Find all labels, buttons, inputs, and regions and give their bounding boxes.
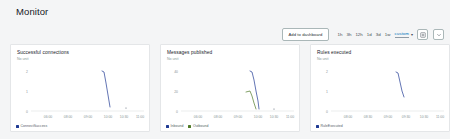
x-tick-label: 09:30 <box>402 115 411 119</box>
legend-item[interactable]: Outbound <box>188 124 208 128</box>
legend-label: Inbound <box>171 124 184 128</box>
time-range-selector: 1h 3h 12h 1d 3d 1w custom ▾ <box>337 31 413 38</box>
y-tick-label: 2 <box>26 70 28 74</box>
chart-plot-area: 2 1 0 06:00 08:00 09:00 10:00 10:30 11:0… <box>16 63 146 121</box>
x-tick-label: 10:00 <box>104 115 113 119</box>
y-tick-label: 40 <box>174 70 178 74</box>
x-tick-label: 10:30 <box>120 115 129 119</box>
legend-label: ConnectSuccess <box>21 124 48 128</box>
page-header: Monitor <box>0 0 450 26</box>
x-tick-label: 10:00 <box>254 115 263 119</box>
chevron-down-icon <box>436 32 442 38</box>
series-point <box>125 107 126 108</box>
series-point <box>273 108 274 109</box>
series-line-ruleexecuted <box>396 72 404 97</box>
legend-label: Outbound <box>193 124 209 128</box>
x-tick-label: 08:00 <box>344 115 353 119</box>
x-axis-ticks: 06:00 08:00 09:00 10:00 10:30 11:00 <box>194 115 294 119</box>
legend-swatch-icon <box>316 125 319 128</box>
chart-title: Messages published <box>167 49 294 56</box>
x-tick-label: 06:00 <box>44 115 53 119</box>
x-tick-label: 10:30 <box>270 115 279 119</box>
monitor-page: Monitor Add to dashboard 1h 3h 12h 1d 3d… <box>0 0 450 139</box>
time-range-12h[interactable]: 12h <box>355 32 362 37</box>
add-to-dashboard-button[interactable]: Add to dashboard <box>282 28 330 41</box>
chart-card-successful-connections[interactable]: Successful connections No unit 2 1 0 06:… <box>10 44 150 132</box>
chart-svg: 2 1 0 06:00 08:00 09:00 10:00 10:30 11:0… <box>16 63 146 121</box>
time-range-3h[interactable]: 3h <box>346 32 351 37</box>
y-axis-ticks: 40 20 0 <box>174 70 178 114</box>
x-tick-label: 08:00 <box>64 115 73 119</box>
chart-legend: ConnectSuccess <box>16 124 47 128</box>
x-tick-label: 08:30 <box>364 115 373 119</box>
y-axis-ticks: 2 1 0 <box>326 70 328 114</box>
y-tick-label: 2 <box>326 70 328 74</box>
legend-label: RuleExecuted <box>321 124 343 128</box>
series-line-connectsuccess <box>102 71 110 107</box>
legend-swatch-icon <box>188 125 191 128</box>
x-tick-label: 09:00 <box>234 115 243 119</box>
refresh-icon <box>420 32 426 38</box>
toolbar: Add to dashboard 1h 3h 12h 1d 3d 1w cust… <box>0 26 450 44</box>
y-tick-label: 1 <box>326 90 328 94</box>
chart-card-rules-executed[interactable]: Rules executed No unit 2 1 0 08:00 08:30… <box>310 44 450 132</box>
chart-title: Successful connections <box>17 49 144 56</box>
y-tick-label: 20 <box>174 90 178 94</box>
chart-unit-label: No unit <box>17 56 144 62</box>
chart-svg: 40 20 0 06:00 08:00 09:00 10:00 10:30 11… <box>166 63 296 121</box>
chart-plot-area: 2 1 0 08:00 08:30 09:00 09:30 10:30 11:0… <box>316 63 446 121</box>
chart-unit-label: No unit <box>317 56 444 62</box>
legend-item[interactable]: RuleExecuted <box>316 124 343 128</box>
x-tick-label: 11:00 <box>136 115 144 119</box>
y-tick-label: 1 <box>26 90 28 94</box>
series-line-outbound <box>246 91 256 109</box>
series-line-inbound <box>250 71 259 109</box>
chart-legend: Inbound Outbound <box>166 124 209 128</box>
y-tick-label: 0 <box>26 110 28 114</box>
legend-item[interactable]: ConnectSuccess <box>16 124 47 128</box>
legend-swatch-icon <box>166 125 169 128</box>
chart-legend: RuleExecuted <box>316 124 343 128</box>
x-tick-label: 11:00 <box>436 115 444 119</box>
settings-dropdown-button[interactable] <box>433 29 444 40</box>
time-range-1d[interactable]: 1d <box>367 32 372 37</box>
x-axis-ticks: 08:00 08:30 09:00 09:30 10:30 11:00 <box>344 115 444 119</box>
chart-unit-label: No unit <box>167 56 294 62</box>
x-axis-ticks: 06:00 08:00 09:00 10:00 10:30 11:00 <box>44 115 144 119</box>
time-range-1h[interactable]: 1h <box>337 32 342 37</box>
chart-card-messages-published[interactable]: Messages published No unit 40 20 0 06:00… <box>160 44 300 132</box>
x-tick-label: 08:00 <box>214 115 223 119</box>
x-tick-label: 11:00 <box>286 115 294 119</box>
y-tick-label: 0 <box>326 110 328 114</box>
chart-svg: 2 1 0 08:00 08:30 09:00 09:30 10:30 11:0… <box>316 63 446 121</box>
chart-title: Rules executed <box>317 49 444 56</box>
time-range-custom[interactable]: custom <box>395 31 409 38</box>
x-tick-label: 06:00 <box>194 115 203 119</box>
page-title: Monitor <box>16 6 48 18</box>
time-range-1w[interactable]: 1w <box>385 32 391 37</box>
refresh-button[interactable] <box>417 29 428 40</box>
y-axis-ticks: 2 1 0 <box>26 70 28 114</box>
x-tick-label: 09:00 <box>84 115 93 119</box>
toolbar-controls: Add to dashboard 1h 3h 12h 1d 3d 1w cust… <box>282 28 444 41</box>
legend-item[interactable]: Inbound <box>166 124 183 128</box>
chart-plot-area: 40 20 0 06:00 08:00 09:00 10:00 10:30 11… <box>166 63 296 121</box>
x-tick-label: 10:30 <box>420 115 429 119</box>
chevron-down-icon[interactable]: ▾ <box>411 32 413 37</box>
time-range-3d[interactable]: 3d <box>376 32 381 37</box>
y-tick-label: 0 <box>176 110 178 114</box>
legend-swatch-icon <box>16 125 19 128</box>
charts-row: Successful connections No unit 2 1 0 06:… <box>0 44 450 139</box>
x-tick-label: 09:00 <box>384 115 393 119</box>
